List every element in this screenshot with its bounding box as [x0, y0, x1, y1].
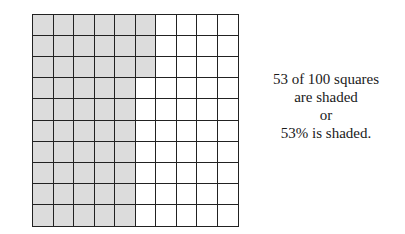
caption-line-2: are shaded [246, 88, 405, 106]
shaded-square [33, 121, 54, 142]
unshaded-square [218, 121, 239, 142]
unshaded-square [136, 99, 157, 120]
shaded-square [54, 15, 75, 36]
unshaded-square [197, 78, 218, 99]
unshaded-square [136, 78, 157, 99]
shaded-square [95, 36, 116, 57]
hundred-square-grid [32, 14, 239, 227]
unshaded-square [136, 163, 157, 184]
unshaded-square [218, 205, 239, 226]
unshaded-square [197, 99, 218, 120]
shaded-square [115, 78, 136, 99]
shaded-square [74, 142, 95, 163]
unshaded-square [197, 205, 218, 226]
shaded-square [33, 163, 54, 184]
unshaded-square [156, 184, 177, 205]
shaded-square [95, 78, 116, 99]
shaded-square [33, 78, 54, 99]
shaded-square [33, 36, 54, 57]
shaded-square [74, 15, 95, 36]
shaded-square [54, 78, 75, 99]
shaded-square [95, 205, 116, 226]
shaded-square [115, 163, 136, 184]
unshaded-square [197, 36, 218, 57]
shaded-square [95, 15, 116, 36]
unshaded-square [218, 15, 239, 36]
unshaded-square [177, 78, 198, 99]
shaded-square [74, 205, 95, 226]
shaded-square [95, 184, 116, 205]
unshaded-square [218, 36, 239, 57]
shaded-square [54, 121, 75, 142]
unshaded-square [177, 99, 198, 120]
unshaded-square [136, 184, 157, 205]
caption-line-1: 53 of 100 squares [246, 70, 405, 88]
shaded-square [115, 57, 136, 78]
shaded-square [54, 184, 75, 205]
shaded-square [74, 99, 95, 120]
shaded-square [74, 57, 95, 78]
shaded-square [74, 36, 95, 57]
shaded-square [136, 36, 157, 57]
unshaded-square [177, 57, 198, 78]
unshaded-square [156, 15, 177, 36]
shaded-square [33, 15, 54, 36]
unshaded-square [218, 78, 239, 99]
unshaded-square [156, 205, 177, 226]
caption-line-3: or [246, 106, 405, 124]
unshaded-square [156, 57, 177, 78]
shaded-square [115, 15, 136, 36]
shaded-square [74, 163, 95, 184]
unshaded-square [218, 142, 239, 163]
unshaded-square [156, 99, 177, 120]
shaded-square [95, 121, 116, 142]
shaded-square [95, 163, 116, 184]
shaded-square [115, 36, 136, 57]
unshaded-square [197, 121, 218, 142]
unshaded-square [197, 15, 218, 36]
shaded-square [74, 184, 95, 205]
shaded-square [95, 57, 116, 78]
unshaded-square [197, 163, 218, 184]
unshaded-square [156, 36, 177, 57]
unshaded-square [197, 142, 218, 163]
unshaded-square [136, 142, 157, 163]
shaded-square [115, 99, 136, 120]
shaded-square [54, 142, 75, 163]
shaded-square [54, 205, 75, 226]
unshaded-square [136, 121, 157, 142]
unshaded-square [218, 99, 239, 120]
shaded-square [54, 99, 75, 120]
shaded-square [54, 36, 75, 57]
unshaded-square [218, 163, 239, 184]
shaded-square [95, 99, 116, 120]
unshaded-square [156, 163, 177, 184]
shaded-square [33, 205, 54, 226]
unshaded-square [177, 142, 198, 163]
unshaded-square [156, 78, 177, 99]
unshaded-square [156, 121, 177, 142]
unshaded-square [156, 142, 177, 163]
shaded-square [33, 142, 54, 163]
unshaded-square [177, 163, 198, 184]
shaded-square [33, 184, 54, 205]
shaded-square [115, 205, 136, 226]
unshaded-square [177, 15, 198, 36]
unshaded-square [136, 205, 157, 226]
unshaded-square [218, 57, 239, 78]
shaded-square [115, 121, 136, 142]
shaded-square [33, 99, 54, 120]
unshaded-square [177, 36, 198, 57]
unshaded-square [177, 205, 198, 226]
caption: 53 of 100 squares are shaded or 53% is s… [246, 70, 405, 142]
unshaded-square [197, 57, 218, 78]
shaded-square [115, 184, 136, 205]
unshaded-square [197, 184, 218, 205]
unshaded-square [177, 121, 198, 142]
shaded-square [136, 15, 157, 36]
shaded-square [95, 142, 116, 163]
unshaded-square [218, 184, 239, 205]
shaded-square [74, 121, 95, 142]
unshaded-square [177, 184, 198, 205]
shaded-square [54, 57, 75, 78]
